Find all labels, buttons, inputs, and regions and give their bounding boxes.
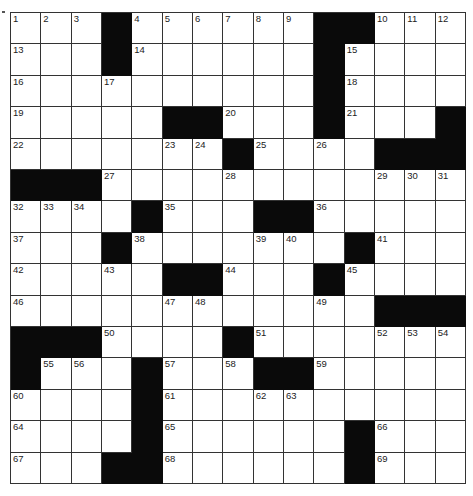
crossword-cell[interactable]: 6 xyxy=(193,13,223,44)
crossword-cell[interactable] xyxy=(223,76,253,107)
crossword-cell[interactable] xyxy=(72,233,102,264)
crossword-cell[interactable] xyxy=(193,233,223,264)
crossword-cell[interactable] xyxy=(254,453,284,484)
crossword-cell[interactable] xyxy=(41,139,71,170)
crossword-cell[interactable] xyxy=(405,44,435,75)
crossword-cell[interactable] xyxy=(436,264,466,295)
crossword-cell[interactable] xyxy=(41,233,71,264)
crossword-cell[interactable] xyxy=(314,233,344,264)
crossword-cell[interactable] xyxy=(193,453,223,484)
crossword-cell[interactable]: 37 xyxy=(11,233,41,264)
crossword-cell[interactable] xyxy=(284,327,314,358)
crossword-cell[interactable] xyxy=(223,421,253,452)
crossword-cell[interactable]: 17 xyxy=(102,76,132,107)
crossword-cell[interactable]: 3 xyxy=(72,13,102,44)
crossword-cell[interactable]: 33 xyxy=(41,201,71,232)
crossword-cell[interactable] xyxy=(193,170,223,201)
crossword-cell[interactable] xyxy=(436,233,466,264)
crossword-cell[interactable] xyxy=(41,390,71,421)
crossword-cell[interactable]: 66 xyxy=(375,421,405,452)
crossword-cell[interactable] xyxy=(132,107,162,138)
crossword-cell[interactable]: 56 xyxy=(72,358,102,389)
crossword-cell[interactable]: 67 xyxy=(11,453,41,484)
crossword-cell[interactable] xyxy=(193,201,223,232)
crossword-cell[interactable]: 1 xyxy=(11,13,41,44)
crossword-cell[interactable] xyxy=(163,233,193,264)
crossword-cell[interactable]: 9 xyxy=(284,13,314,44)
crossword-cell[interactable] xyxy=(41,264,71,295)
crossword-cell[interactable]: 58 xyxy=(223,358,253,389)
crossword-cell[interactable]: 35 xyxy=(163,201,193,232)
crossword-cell[interactable] xyxy=(254,296,284,327)
crossword-cell[interactable]: 2 xyxy=(41,13,71,44)
crossword-cell[interactable] xyxy=(102,107,132,138)
crossword-cell[interactable] xyxy=(314,170,344,201)
crossword-cell[interactable] xyxy=(345,390,375,421)
crossword-cell[interactable]: 62 xyxy=(254,390,284,421)
crossword-cell[interactable]: 63 xyxy=(284,390,314,421)
crossword-cell[interactable] xyxy=(72,76,102,107)
crossword-cell[interactable]: 64 xyxy=(11,421,41,452)
crossword-cell[interactable] xyxy=(163,327,193,358)
crossword-cell[interactable] xyxy=(314,390,344,421)
crossword-cell[interactable] xyxy=(284,296,314,327)
crossword-cell[interactable] xyxy=(72,453,102,484)
crossword-cell[interactable]: 23 xyxy=(163,139,193,170)
crossword-cell[interactable]: 45 xyxy=(345,264,375,295)
crossword-cell[interactable] xyxy=(405,264,435,295)
crossword-cell[interactable] xyxy=(72,390,102,421)
crossword-cell[interactable] xyxy=(72,421,102,452)
crossword-cell[interactable] xyxy=(436,390,466,421)
crossword-cell[interactable] xyxy=(375,264,405,295)
crossword-cell[interactable]: 36 xyxy=(314,201,344,232)
crossword-cell[interactable]: 51 xyxy=(254,327,284,358)
crossword-cell[interactable] xyxy=(284,44,314,75)
crossword-cell[interactable] xyxy=(436,453,466,484)
crossword-cell[interactable] xyxy=(193,76,223,107)
crossword-cell[interactable] xyxy=(102,390,132,421)
crossword-cell[interactable] xyxy=(132,170,162,201)
crossword-cell[interactable] xyxy=(284,264,314,295)
crossword-cell[interactable]: 32 xyxy=(11,201,41,232)
crossword-cell[interactable]: 57 xyxy=(163,358,193,389)
crossword-cell[interactable]: 47 xyxy=(163,296,193,327)
crossword-cell[interactable] xyxy=(405,358,435,389)
crossword-cell[interactable] xyxy=(405,76,435,107)
crossword-cell[interactable] xyxy=(223,201,253,232)
crossword-cell[interactable] xyxy=(375,201,405,232)
crossword-cell[interactable] xyxy=(314,421,344,452)
crossword-cell[interactable] xyxy=(41,421,71,452)
crossword-cell[interactable] xyxy=(102,296,132,327)
crossword-cell[interactable]: 69 xyxy=(375,453,405,484)
crossword-cell[interactable] xyxy=(284,76,314,107)
crossword-cell[interactable]: 11 xyxy=(405,13,435,44)
crossword-cell[interactable]: 55 xyxy=(41,358,71,389)
crossword-cell[interactable]: 52 xyxy=(375,327,405,358)
crossword-cell[interactable] xyxy=(132,264,162,295)
crossword-cell[interactable] xyxy=(375,76,405,107)
crossword-cell[interactable]: 7 xyxy=(223,13,253,44)
crossword-cell[interactable] xyxy=(254,76,284,107)
crossword-cell[interactable]: 65 xyxy=(163,421,193,452)
crossword-cell[interactable] xyxy=(375,107,405,138)
crossword-cell[interactable] xyxy=(405,453,435,484)
crossword-cell[interactable]: 22 xyxy=(11,139,41,170)
crossword-cell[interactable]: 26 xyxy=(314,139,344,170)
crossword-cell[interactable]: 8 xyxy=(254,13,284,44)
crossword-cell[interactable] xyxy=(163,76,193,107)
crossword-cell[interactable]: 48 xyxy=(193,296,223,327)
crossword-cell[interactable]: 49 xyxy=(314,296,344,327)
crossword-cell[interactable] xyxy=(72,44,102,75)
crossword-cell[interactable]: 13 xyxy=(11,44,41,75)
crossword-cell[interactable] xyxy=(375,44,405,75)
crossword-cell[interactable]: 54 xyxy=(436,327,466,358)
crossword-cell[interactable]: 39 xyxy=(254,233,284,264)
crossword-cell[interactable] xyxy=(193,327,223,358)
crossword-cell[interactable] xyxy=(405,421,435,452)
crossword-cell[interactable] xyxy=(102,139,132,170)
crossword-cell[interactable] xyxy=(41,296,71,327)
crossword-cell[interactable]: 19 xyxy=(11,107,41,138)
crossword-cell[interactable]: 14 xyxy=(132,44,162,75)
crossword-cell[interactable] xyxy=(193,390,223,421)
crossword-cell[interactable] xyxy=(345,170,375,201)
